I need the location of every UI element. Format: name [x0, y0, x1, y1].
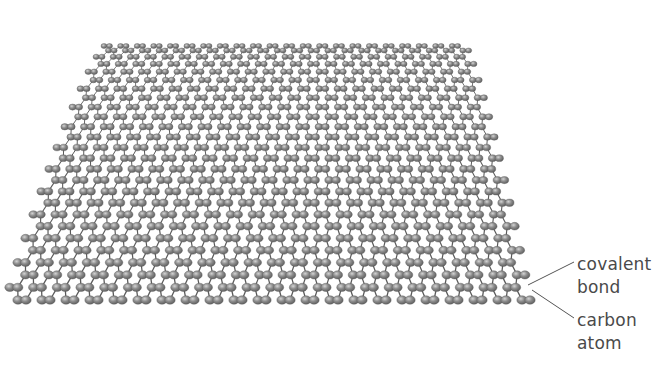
carbon-atom — [107, 124, 115, 130]
carbon-atom — [114, 77, 121, 83]
carbon-atom — [438, 44, 444, 49]
carbon-atom — [298, 258, 308, 266]
carbon-atom — [240, 48, 246, 53]
carbon-atom — [458, 69, 465, 75]
carbon-atom — [132, 104, 139, 110]
carbon-atom — [432, 86, 439, 92]
carbon-atom — [520, 271, 530, 279]
carbon-atom — [263, 48, 269, 53]
carbon-atom — [505, 199, 514, 206]
carbon-atom — [127, 246, 137, 254]
carbon-atom — [282, 124, 290, 130]
carbon-atom — [492, 246, 502, 254]
carbon-atom — [220, 61, 227, 66]
carbon-atom — [93, 54, 99, 59]
carbon-atom — [277, 211, 286, 219]
carbon-atom — [163, 95, 170, 101]
carbon-atom — [470, 61, 477, 66]
covalent-bond-label-line2: bond — [577, 277, 651, 298]
carbon-atom — [469, 86, 476, 92]
carbon-atom — [118, 44, 124, 49]
carbon-atom — [325, 61, 332, 66]
carbon-atom — [275, 258, 285, 266]
carbon-atom — [219, 54, 225, 59]
carbon-atom — [246, 199, 255, 206]
carbon-atom — [230, 86, 237, 92]
carbon-atom — [230, 54, 236, 59]
carbon-atom — [300, 44, 306, 49]
carbon-atom — [341, 104, 348, 110]
carbon-atom — [204, 77, 211, 83]
carbon-atom — [412, 61, 419, 66]
carbon-atom — [186, 234, 196, 242]
carbon-atom — [428, 188, 437, 195]
carbon-atom — [480, 95, 487, 101]
carbon-atom — [179, 283, 189, 291]
carbon-atom — [58, 177, 67, 184]
carbon-atom — [510, 283, 520, 291]
carbon-atom — [475, 155, 483, 162]
carbon-atom — [139, 114, 147, 120]
carbon-atom — [197, 166, 205, 173]
carbon-atom — [44, 188, 53, 195]
carbon-atom — [190, 211, 199, 219]
carbon-atom — [321, 166, 329, 173]
carbon-atom — [185, 124, 193, 130]
carbon-atom — [138, 61, 145, 66]
carbon-atom — [374, 54, 380, 59]
carbon-atom — [265, 54, 271, 59]
carbon-atom — [341, 124, 349, 130]
carbon-atom — [208, 104, 215, 110]
carbon-atom — [368, 95, 375, 101]
carbon-atom — [454, 54, 460, 59]
annotation-pointers — [528, 262, 574, 318]
carbon-atom — [404, 166, 412, 173]
carbon-atom — [185, 177, 194, 184]
carbon-atom — [389, 114, 397, 120]
carbon-atom — [393, 69, 400, 75]
carbon-atom — [310, 246, 320, 254]
carbon-atom — [309, 271, 319, 279]
carbon-atom — [80, 211, 89, 219]
carbon-atom — [285, 296, 295, 305]
carbon-atom — [73, 134, 81, 141]
carbon-atom — [250, 44, 256, 49]
carbon-atom — [409, 48, 415, 53]
carbon-atom — [254, 114, 262, 120]
carbon-atom — [421, 222, 430, 230]
carbon-atom — [229, 48, 235, 53]
carbon-atom — [525, 296, 535, 305]
carbon-atom — [403, 271, 413, 279]
carbon-atom — [248, 86, 255, 92]
carbon-atom — [369, 69, 376, 75]
carbon-atom — [184, 44, 190, 49]
carbon-atom — [252, 258, 262, 266]
carbon-atom — [110, 222, 119, 230]
carbon-atom — [305, 54, 311, 59]
carbon-atom — [381, 296, 391, 305]
carbon-atom — [270, 54, 276, 59]
carbon-atom — [126, 95, 133, 101]
carbon-atom — [233, 69, 240, 75]
carbon-atom — [255, 211, 264, 219]
carbon-atom — [21, 296, 31, 305]
carbon-atom — [179, 48, 185, 53]
carbon-atom — [207, 48, 213, 53]
carbon-atom — [159, 258, 169, 266]
carbon-atom — [189, 155, 197, 162]
carbon-atom — [331, 114, 339, 120]
carbon-atom — [342, 144, 350, 151]
carbon-atom — [264, 246, 274, 254]
carbon-atom — [145, 48, 151, 53]
carbon-atom — [218, 166, 226, 173]
carbon-atom — [94, 104, 101, 110]
carbon-atom — [321, 283, 331, 291]
carbon-atom — [155, 166, 163, 173]
carbon-atom — [466, 114, 474, 120]
carbon-atom — [276, 234, 286, 242]
carbon-atom — [201, 144, 209, 151]
carbon-atom — [274, 114, 282, 120]
carbon-atom — [174, 69, 181, 75]
carbon-atom — [385, 77, 392, 83]
carbon-atom — [366, 234, 376, 242]
